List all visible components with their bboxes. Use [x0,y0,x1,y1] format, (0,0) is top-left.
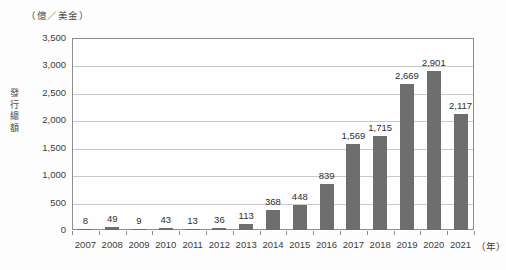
bar-value-label: 2,669 [395,70,419,81]
bar[interactable] [132,229,146,230]
x-axis-tick [394,231,395,235]
y-axis-tick-label: 1,000 [24,169,66,180]
bar-value-label: 2,901 [422,57,446,68]
x-axis-tick [260,231,261,235]
bar-slot: 368 [260,38,287,230]
bar-value-label: 113 [239,210,254,221]
bar[interactable] [400,84,414,230]
bar-slot: 8 [72,38,99,230]
x-axis-tick [286,231,287,235]
y-axis-tick-label: 2,000 [24,114,66,125]
bar-slot: 49 [99,38,126,230]
bar-value-label: 13 [187,215,198,226]
bar-slot: 43 [152,38,179,230]
bar-slot: 9 [126,38,153,230]
bar[interactable] [212,228,226,230]
y-axis-tick-label: 3,500 [24,32,66,43]
bar-value-label: 1,715 [368,122,392,133]
bar-slot: 36 [206,38,233,230]
x-axis-tick [474,231,475,235]
y-axis-tick-label: 500 [24,197,66,208]
x-axis-tick [126,231,127,235]
bar[interactable] [346,144,360,230]
bar[interactable] [78,229,92,230]
bar-slot: 2,901 [420,38,447,230]
x-axis-tick [367,231,368,235]
x-axis-tick [99,231,100,235]
x-axis-tick [420,231,421,235]
y-axis-tick-label: 1,500 [24,142,66,153]
bar[interactable] [186,229,200,230]
bar-slot: 1,715 [367,38,394,230]
bar-value-label: 839 [319,170,335,181]
bar-value-label: 368 [265,196,281,207]
bars-layer: 84994313361133684488391,5691,7152,6692,9… [72,38,474,230]
bar-value-label: 448 [292,191,308,202]
x-axis-tick-label: 2021 [444,239,478,250]
y-axis-tick-label: 2,500 [24,87,66,98]
bar[interactable] [320,184,334,230]
bar-slot: 448 [286,38,313,230]
bar-chart: （億／美金） 發行總額 05001,0001,5002,0002,5003,00… [0,0,506,270]
x-axis-tick [206,231,207,235]
x-axis-tick [447,231,448,235]
bar-slot: 2,669 [394,38,421,230]
bar-slot: 13 [179,38,206,230]
bar-slot: 2,117 [447,38,474,230]
bar[interactable] [427,71,441,230]
bar-value-label: 49 [107,213,118,224]
x-axis-tick [313,231,314,235]
bar-slot: 839 [313,38,340,230]
bar[interactable] [266,210,280,230]
bar-value-label: 36 [214,214,225,225]
bar[interactable] [454,114,468,230]
y-axis-tick-label: 3,000 [24,59,66,70]
x-axis-tick [233,231,234,235]
bar-value-label: 2,117 [449,100,472,111]
x-axis-tick [179,231,180,235]
bar-value-label: 9 [136,215,141,226]
bar-slot: 1,569 [340,38,367,230]
bar-value-label: 1,569 [342,130,366,141]
bar-slot: 113 [233,38,260,230]
bar[interactable] [373,136,387,230]
bar[interactable] [239,224,253,230]
bar[interactable] [293,205,307,230]
bar-value-label: 8 [83,215,88,226]
y-axis-tick-label: 0 [24,224,66,235]
bar-value-label: 43 [160,214,171,225]
x-axis-tick [72,231,73,235]
x-axis-tick [340,231,341,235]
x-axis-unit-caption: （年） [476,239,506,253]
bar[interactable] [159,228,173,230]
bar[interactable] [105,227,119,230]
x-axis-tick [152,231,153,235]
